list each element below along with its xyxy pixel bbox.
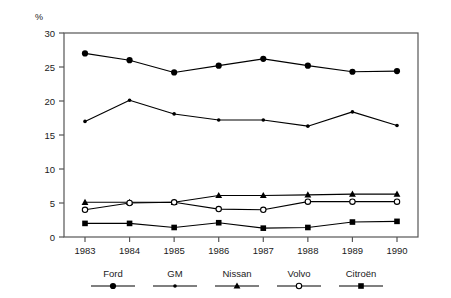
data-point	[127, 200, 132, 205]
data-point	[171, 225, 177, 231]
x-tick-label: 1983	[74, 245, 95, 256]
data-point	[82, 50, 88, 56]
data-point	[260, 225, 266, 231]
data-point	[394, 219, 400, 225]
y-tick-label: 5	[50, 198, 55, 209]
data-point	[261, 118, 265, 122]
x-tick-label: 1984	[119, 245, 140, 256]
data-point	[350, 199, 355, 204]
data-point	[171, 69, 177, 75]
data-point	[83, 120, 87, 124]
legend-marker	[358, 283, 364, 289]
y-tick-label: 15	[44, 130, 55, 141]
data-point	[305, 63, 311, 69]
x-tick-label: 1989	[342, 245, 363, 256]
y-tick-label: 30	[44, 28, 55, 39]
legend-label: GM	[167, 268, 182, 279]
data-point	[350, 219, 356, 225]
legend-label: Volvo	[287, 268, 310, 279]
data-point	[127, 221, 133, 227]
data-point	[216, 220, 222, 226]
y-tick-label: 10	[44, 164, 55, 175]
data-point	[261, 207, 266, 212]
legend-label: Ford	[103, 268, 123, 279]
data-point	[216, 206, 221, 211]
legend-marker	[296, 283, 301, 288]
data-point	[306, 124, 310, 128]
x-tick-label: 1988	[297, 245, 318, 256]
x-tick-label: 1987	[253, 245, 274, 256]
data-point	[349, 69, 355, 75]
chart-figure: % 051015202530 1983198419851986198719881…	[0, 0, 451, 298]
data-point	[128, 99, 132, 103]
data-point	[126, 57, 132, 63]
data-point	[82, 221, 88, 227]
data-point	[305, 199, 310, 204]
y-axis-unit-label: %	[35, 12, 43, 22]
data-point	[260, 56, 266, 62]
y-tick-label: 0	[50, 232, 55, 243]
line-chart: % 051015202530 1983198419851986198719881…	[0, 0, 451, 298]
data-point	[171, 200, 176, 205]
y-tick-label: 25	[44, 62, 55, 73]
data-point	[351, 110, 355, 114]
x-tick-label: 1990	[386, 245, 407, 256]
data-point	[82, 207, 87, 212]
data-point	[394, 68, 400, 74]
legend-label: Citroën	[346, 268, 377, 279]
data-point	[217, 118, 221, 122]
legend-marker	[173, 284, 177, 288]
data-point	[216, 63, 222, 69]
data-point	[172, 112, 176, 116]
data-point	[394, 199, 399, 204]
x-tick-label: 1986	[208, 245, 229, 256]
data-point	[395, 124, 399, 128]
legend-label: Nissan	[222, 268, 251, 279]
legend-marker	[110, 283, 116, 289]
x-tick-label: 1985	[164, 245, 185, 256]
y-tick-label: 20	[44, 96, 55, 107]
data-point	[305, 225, 311, 231]
